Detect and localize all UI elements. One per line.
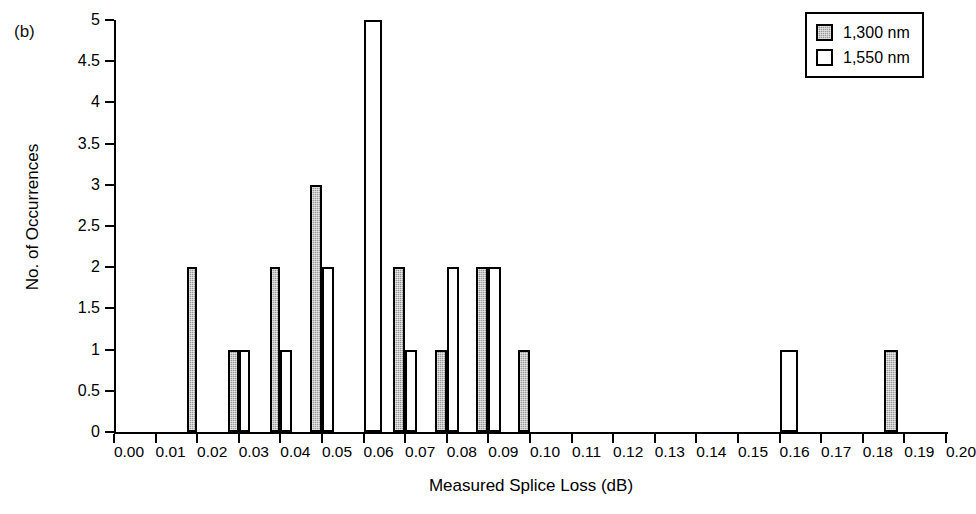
plot-area: 00.511.522.533.544.55 0.000.010.020.030.… [114, 20, 946, 434]
y-axis-label: No. of Occurrences [23, 144, 43, 290]
x-tick [196, 434, 198, 443]
x-tick-label: 0.06 [364, 444, 394, 460]
x-tick [945, 434, 947, 443]
x-tick-label: 0.17 [821, 444, 851, 460]
x-tick [363, 434, 365, 443]
x-tick [612, 434, 614, 443]
y-tick [105, 266, 114, 268]
x-tick [155, 434, 157, 443]
y-tick [105, 101, 114, 103]
x-tick-label: 0.00 [114, 444, 144, 460]
legend-label-1300: 1,300 nm [843, 25, 910, 41]
y-tick [105, 19, 114, 21]
x-tick-label: 0.05 [322, 444, 352, 460]
x-tick [529, 434, 531, 443]
y-tick [105, 225, 114, 227]
x-tick-label: 0.07 [405, 444, 435, 460]
x-tick-label: 0.02 [197, 444, 227, 460]
bar-1550nm [780, 350, 799, 432]
x-tick-label: 0.11 [572, 444, 601, 460]
x-tick [779, 434, 781, 443]
y-tick [105, 390, 114, 392]
bar-1550nm [447, 267, 459, 432]
x-tick [321, 434, 323, 443]
x-tick [404, 434, 406, 443]
y-tick [105, 60, 114, 62]
legend: 1,300 nm 1,550 nm [805, 12, 924, 78]
x-tick-label: 0.10 [530, 444, 560, 460]
x-tick [113, 434, 115, 443]
y-tick-label: 2 [44, 259, 100, 275]
y-tick-label: 2.5 [44, 218, 100, 234]
x-tick [820, 434, 822, 443]
x-tick-label: 0.01 [156, 444, 186, 460]
x-tick [737, 434, 739, 443]
x-tick [446, 434, 448, 443]
x-tick [238, 434, 240, 443]
bar-1300nm [270, 267, 280, 432]
bar-1300nm [884, 350, 899, 432]
y-tick-label: 3 [44, 177, 100, 193]
bar-1550nm [405, 350, 417, 432]
y-tick-label: 5 [44, 12, 100, 28]
x-tick [862, 434, 864, 443]
y-tick-label: 4.5 [44, 53, 100, 69]
bar-1300nm [435, 350, 447, 432]
x-tick [487, 434, 489, 443]
legend-swatch-1550-icon [816, 49, 833, 66]
legend-item-1550: 1,550 nm [816, 45, 910, 70]
x-tick-label: 0.13 [655, 444, 685, 460]
x-tick-label: 0.16 [780, 444, 810, 460]
x-tick-label: 0.12 [613, 444, 643, 460]
x-tick [571, 434, 573, 443]
y-tick [105, 184, 114, 186]
y-tick-label: 4 [44, 94, 100, 110]
x-tick-label: 0.20 [946, 444, 976, 460]
bar-1550nm [364, 20, 383, 432]
legend-label-1550: 1,550 nm [843, 50, 910, 66]
y-tick [105, 431, 114, 433]
bar-1550nm [322, 267, 334, 432]
bar-1550nm [280, 350, 292, 432]
x-tick-label: 0.03 [239, 444, 269, 460]
y-tick [105, 143, 114, 145]
bar-1300nm [187, 267, 197, 432]
x-tick [903, 434, 905, 443]
x-tick-label: 0.18 [863, 444, 893, 460]
x-tick-label: 0.04 [280, 444, 310, 460]
y-tick [105, 307, 114, 309]
x-tick-label: 0.08 [447, 444, 477, 460]
y-axis-line [114, 20, 116, 434]
x-tick-label: 0.09 [488, 444, 518, 460]
y-tick-label: 1 [44, 342, 100, 358]
bar-1300nm [228, 350, 238, 432]
y-tick-label: 1.5 [44, 300, 100, 316]
legend-item-1300: 1,300 nm [816, 20, 910, 45]
bar-1300nm [310, 185, 322, 432]
bar-1550nm [239, 350, 250, 432]
x-tick-label: 0.15 [738, 444, 768, 460]
bar-1300nm [518, 350, 530, 432]
x-tick-label: 0.14 [696, 444, 726, 460]
y-tick-label: 3.5 [44, 136, 100, 152]
legend-swatch-1300-icon [816, 24, 833, 41]
x-tick [695, 434, 697, 443]
bar-1550nm [488, 267, 500, 432]
x-tick-label: 0.19 [904, 444, 934, 460]
bar-1300nm [476, 267, 488, 432]
x-axis-label: Measured Splice Loss (dB) [114, 476, 948, 496]
y-tick [105, 349, 114, 351]
y-tick-label: 0 [44, 424, 100, 440]
bar-1300nm [393, 267, 405, 432]
x-tick [279, 434, 281, 443]
x-tick [654, 434, 656, 443]
y-tick-label: 0.5 [44, 383, 100, 399]
